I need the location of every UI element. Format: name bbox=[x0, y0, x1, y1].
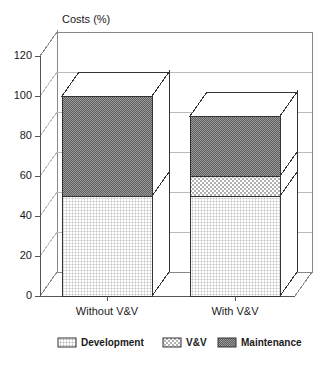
bar-group-with-vv bbox=[190, 92, 297, 296]
y-tick-80: 80 bbox=[20, 129, 32, 141]
legend-label-vv: V&V bbox=[186, 337, 207, 348]
x-axis: Without V&V With V&V bbox=[76, 296, 259, 317]
legend-label-maintenance: Maintenance bbox=[241, 337, 302, 348]
legend-item-vv: V&V bbox=[163, 337, 207, 348]
legend: Development V&V Maintenance bbox=[58, 337, 302, 348]
y-tick-100: 100 bbox=[14, 89, 32, 101]
depth-line-20 bbox=[40, 232, 57, 256]
x-category-label-without-vv: Without V&V bbox=[76, 305, 139, 317]
bar-segment-maintenance-with-vv bbox=[190, 116, 280, 176]
legend-label-development: Development bbox=[81, 337, 144, 348]
chart-container: 120 100 80 60 40 20 0 Costs (%) bbox=[0, 0, 335, 369]
bar-segment-development-with-vv bbox=[190, 196, 280, 296]
bar-group-without-vv bbox=[62, 72, 169, 296]
bar-segment-maintenance-without-vv bbox=[62, 96, 152, 196]
y-tick-40: 40 bbox=[20, 209, 32, 221]
y-tick-120: 120 bbox=[14, 49, 32, 61]
x-category-label-with-vv: With V&V bbox=[211, 305, 259, 317]
legend-swatch-vv bbox=[163, 338, 181, 347]
depth-line-60 bbox=[40, 152, 57, 176]
legend-item-maintenance: Maintenance bbox=[218, 337, 302, 348]
bar-top-face-without-vv bbox=[62, 72, 169, 96]
depth-line-80 bbox=[40, 112, 57, 136]
y-tick-20: 20 bbox=[20, 249, 32, 261]
bar-segment-vv-with-vv bbox=[190, 176, 280, 196]
costs-stacked-bar-chart: 120 100 80 60 40 20 0 Costs (%) bbox=[0, 0, 335, 369]
legend-swatch-maintenance bbox=[218, 338, 236, 347]
chart-title: Costs (%) bbox=[62, 13, 110, 25]
y-tick-0: 0 bbox=[26, 289, 32, 301]
bar-segment-development-without-vv bbox=[62, 196, 152, 296]
depth-line-40 bbox=[40, 192, 57, 216]
legend-swatch-development bbox=[58, 338, 76, 347]
bar-top-face-with-vv bbox=[190, 92, 297, 116]
y-tick-60: 60 bbox=[20, 169, 32, 181]
depth-line-100 bbox=[40, 72, 57, 96]
legend-item-development: Development bbox=[58, 337, 144, 348]
